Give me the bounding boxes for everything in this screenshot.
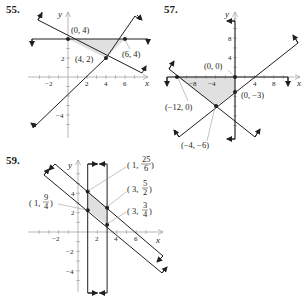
vertex-label-3-3-4: ( 3, 3 4 ) bbox=[127, 200, 152, 219]
svg-text:6: 6 bbox=[144, 163, 148, 173]
vertex-point bbox=[86, 208, 90, 212]
y-tick-label: 2 bbox=[61, 55, 65, 63]
vertex-label: (0, 0) bbox=[204, 61, 223, 71]
svg-text:(: ( bbox=[127, 206, 130, 216]
boundary-line-x1 bbox=[88, 164, 98, 293]
x-tick-label: 4 bbox=[253, 80, 257, 88]
x-tick-label: −4 bbox=[208, 80, 216, 88]
svg-text:3,: 3, bbox=[132, 184, 138, 194]
svg-text:): ) bbox=[149, 184, 152, 194]
vertex-label-1-25-6: ( 1, 25 6 ) bbox=[127, 154, 154, 173]
vertex-point bbox=[214, 104, 218, 108]
x-axis-label: x bbox=[155, 235, 160, 245]
svg-text:(: ( bbox=[127, 160, 130, 170]
x-tick-label: −2 bbox=[52, 235, 60, 243]
graphs-canvas: −2 2 4 6 2 −4 y x (0, 4) (6, 4) (4, 2) bbox=[0, 0, 306, 298]
vertex-label: (−4, −6) bbox=[181, 140, 209, 150]
vertex-point bbox=[66, 37, 70, 41]
y-axis-label: y bbox=[57, 9, 62, 19]
svg-text:1,: 1, bbox=[34, 198, 40, 208]
x-tick-label: −2 bbox=[45, 80, 53, 88]
graph-57: −8 −4 4 8 8 4 y x (0, 0) (−12, 0) (0, −3… bbox=[165, 9, 301, 150]
svg-text:3,: 3, bbox=[132, 206, 138, 216]
graph-59: −2 2 4 6 4 2 −2 −4 y x ( bbox=[28, 154, 167, 293]
x-tick-label: 2 bbox=[85, 80, 89, 88]
y-axis-label: y bbox=[224, 9, 229, 19]
y-tick-label: 2 bbox=[71, 209, 75, 217]
svg-text:1,: 1, bbox=[132, 160, 138, 170]
svg-text:4: 4 bbox=[44, 201, 49, 211]
vertex-label-3-5-2: ( 3, 5 2 ) bbox=[127, 178, 152, 197]
y-tick-label: 8 bbox=[228, 35, 232, 43]
y-axis-label: y bbox=[67, 160, 72, 170]
y-tick-label: −4 bbox=[56, 112, 64, 120]
vertex-label: (−12, 0) bbox=[165, 102, 193, 112]
vertex-label-1-9-4: ( 1, 9 4 ) bbox=[29, 192, 53, 211]
x-tick-label: 6 bbox=[123, 80, 127, 88]
svg-text:): ) bbox=[151, 160, 154, 170]
vertex-label: (0, 4) bbox=[71, 25, 90, 35]
x-tick-label: −8 bbox=[189, 80, 197, 88]
svg-text:): ) bbox=[149, 206, 152, 216]
y-tick-label: 4 bbox=[71, 190, 75, 198]
y-tick-label: −4 bbox=[66, 268, 74, 276]
svg-text:): ) bbox=[50, 198, 53, 208]
x-axis-label: x bbox=[296, 78, 301, 88]
y-tick-label: 4 bbox=[228, 54, 232, 62]
y-tick-label: −2 bbox=[66, 248, 74, 256]
graph-55: −2 2 4 6 2 −4 y x (0, 4) (6, 4) (4, 2) bbox=[28, 9, 149, 138]
vertex-label: (4, 2) bbox=[75, 54, 94, 64]
svg-text:(: ( bbox=[29, 198, 32, 208]
vertex-point bbox=[104, 56, 108, 60]
vertex-label: (0, −3) bbox=[241, 90, 264, 100]
vertex-point bbox=[105, 206, 109, 210]
svg-text:4: 4 bbox=[143, 209, 148, 219]
svg-text:2: 2 bbox=[143, 187, 147, 197]
x-tick-label: 6 bbox=[134, 235, 138, 243]
x-tick-label: 4 bbox=[104, 80, 108, 88]
x-axis-label: x bbox=[144, 78, 149, 88]
vertex-point bbox=[233, 90, 237, 94]
x-tick-label: 2 bbox=[95, 235, 99, 243]
vertex-label: (6, 4) bbox=[122, 49, 141, 59]
x-tick-label: 8 bbox=[272, 80, 276, 88]
svg-text:(: ( bbox=[127, 184, 130, 194]
